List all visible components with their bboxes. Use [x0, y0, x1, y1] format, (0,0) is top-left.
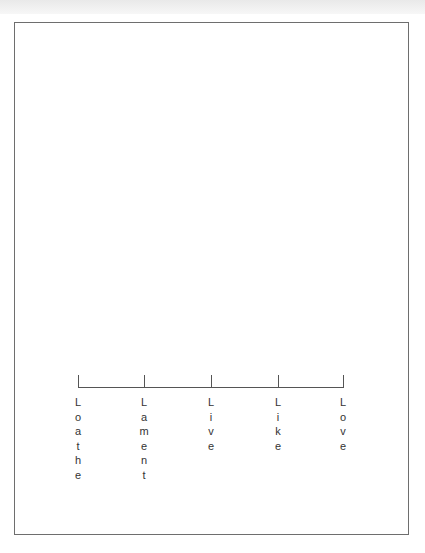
scale-label-like: Like [272, 395, 284, 453]
scale-label-live: Live [205, 395, 217, 453]
scan-top-band [0, 0, 425, 14]
scale-tick-like [278, 375, 279, 388]
scale-tick-lament [144, 375, 145, 388]
scale-tick-live [211, 375, 212, 388]
scale-label-lament: Lament [138, 395, 150, 482]
scale-tick-love [343, 375, 344, 388]
scale-label-loathe: Loathe [72, 395, 84, 482]
scale-tick-loathe [78, 375, 79, 388]
scale-label-love: Love [337, 395, 349, 453]
